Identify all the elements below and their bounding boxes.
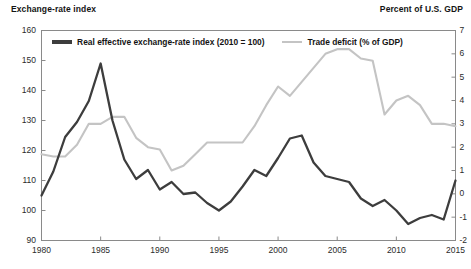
legend-swatch-exchange-rate [52, 40, 72, 43]
y-right-tick-label: -2 [460, 236, 468, 245]
y-right-tick-label: 6 [460, 49, 465, 58]
legend-item-exchange-rate: Real effective exchange-rate index (2010… [52, 37, 264, 47]
x-tick-label: 2000 [258, 246, 298, 255]
y-left-tick-label: 90 [6, 236, 36, 245]
x-tick-label: 2015 [436, 246, 471, 255]
y-left-tick-label: 100 [6, 206, 36, 215]
y-left-tick-label: 140 [6, 86, 36, 95]
chart-legend: Real effective exchange-rate index (2010… [55, 33, 400, 51]
y-right-tick-label: 1 [460, 166, 465, 175]
x-tick-label: 1980 [22, 246, 62, 255]
x-tick-label: 1990 [140, 246, 180, 255]
y-left-tick-label: 130 [6, 116, 36, 125]
legend-label-exchange-rate: Real effective exchange-rate index (2010… [77, 37, 264, 47]
y-right-tick-label: 7 [460, 26, 465, 35]
y-left-tick-label: 160 [6, 26, 36, 35]
x-tick-label: 1985 [81, 246, 121, 255]
x-tick-label: 2005 [317, 246, 357, 255]
legend-item-trade-deficit: Trade deficit (% of GDP) [282, 37, 402, 47]
y-right-tick-label: 2 [460, 143, 465, 152]
x-tick-label: 1995 [199, 246, 239, 255]
chart-figure: Exchange-rate index Percent of U.S. GDP … [0, 0, 471, 269]
legend-swatch-trade-deficit [282, 41, 302, 44]
legend-label-trade-deficit: Trade deficit (% of GDP) [307, 37, 402, 47]
y-right-tick-label: 5 [460, 73, 465, 82]
x-tick-label: 2010 [376, 246, 416, 255]
y-right-tick-label: 3 [460, 119, 465, 128]
y-left-tick-label: 150 [6, 56, 36, 65]
y-right-tick-label: 0 [460, 189, 465, 198]
y-left-tick-label: 110 [6, 176, 36, 185]
y-left-tick-label: 120 [6, 146, 36, 155]
y-right-tick-label: -1 [460, 213, 468, 222]
y-right-tick-label: 4 [460, 96, 465, 105]
